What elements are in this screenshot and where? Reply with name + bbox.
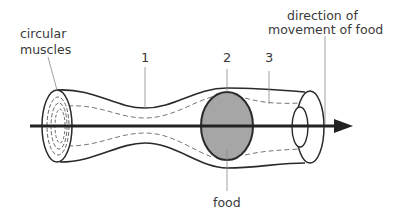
label-direction-1: direction of — [287, 8, 358, 23]
marker-1: 1 — [141, 50, 149, 65]
label-circular-muscles-1: circular — [20, 26, 66, 41]
leader-circular-muscles — [48, 57, 57, 90]
label-direction-2: movement of food — [268, 22, 383, 37]
tube-outline-top — [57, 88, 305, 108]
marker-3: 3 — [265, 50, 273, 65]
tube-outline-bottom — [60, 143, 305, 168]
label-circular-muscles-2: muscles — [20, 42, 71, 57]
label-food: food — [213, 195, 241, 210]
marker-2: 2 — [223, 50, 231, 65]
